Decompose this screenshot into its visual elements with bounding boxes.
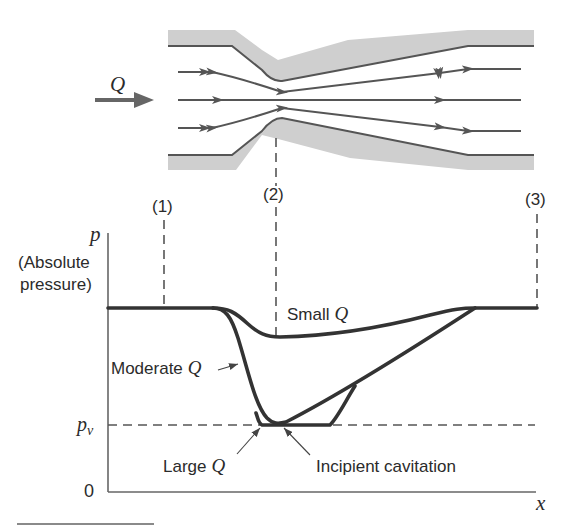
flow-label: Q xyxy=(110,72,125,96)
venturi-cavitation-diagram: Q (1) (2) (3) p (Absolute pressure) 0 x … xyxy=(0,0,570,528)
flow-arrow-head xyxy=(134,92,154,108)
label-small-q: SmallQ xyxy=(287,303,349,324)
streamline-lower xyxy=(178,108,521,131)
moderate-q-leader xyxy=(218,364,238,370)
station-markers: (1) (2) (3) xyxy=(152,185,546,336)
station-3-label: (3) xyxy=(525,190,546,209)
streamline-upper xyxy=(178,69,521,92)
y-axis-label-line2: pressure) xyxy=(20,275,92,294)
origin-label: 0 xyxy=(84,481,94,501)
axes: p (Absolute pressure) 0 x pv xyxy=(18,222,546,515)
label-incipient-cavitation: Incipient cavitation xyxy=(316,457,456,476)
y-axis-symbol: p xyxy=(88,222,101,246)
incipient-cavitation-leader xyxy=(284,428,310,455)
x-axis-symbol: x xyxy=(535,491,546,515)
station-1-label: (1) xyxy=(152,197,173,216)
curve-labels: SmallQ ModerateQ LargeQ Incipient cavita… xyxy=(111,303,456,476)
vapor-pressure-label: pv xyxy=(75,413,94,438)
large-q-leader xyxy=(237,428,260,454)
label-large-q: LargeQ xyxy=(163,455,225,476)
station-2-label: (2) xyxy=(263,185,284,204)
label-moderate-q: ModerateQ xyxy=(111,357,202,378)
venturi-tube: Q xyxy=(95,30,534,186)
footer-rule xyxy=(17,523,154,525)
curve-small-q xyxy=(213,308,537,337)
y-axis-label-line1: (Absolute xyxy=(18,253,90,272)
